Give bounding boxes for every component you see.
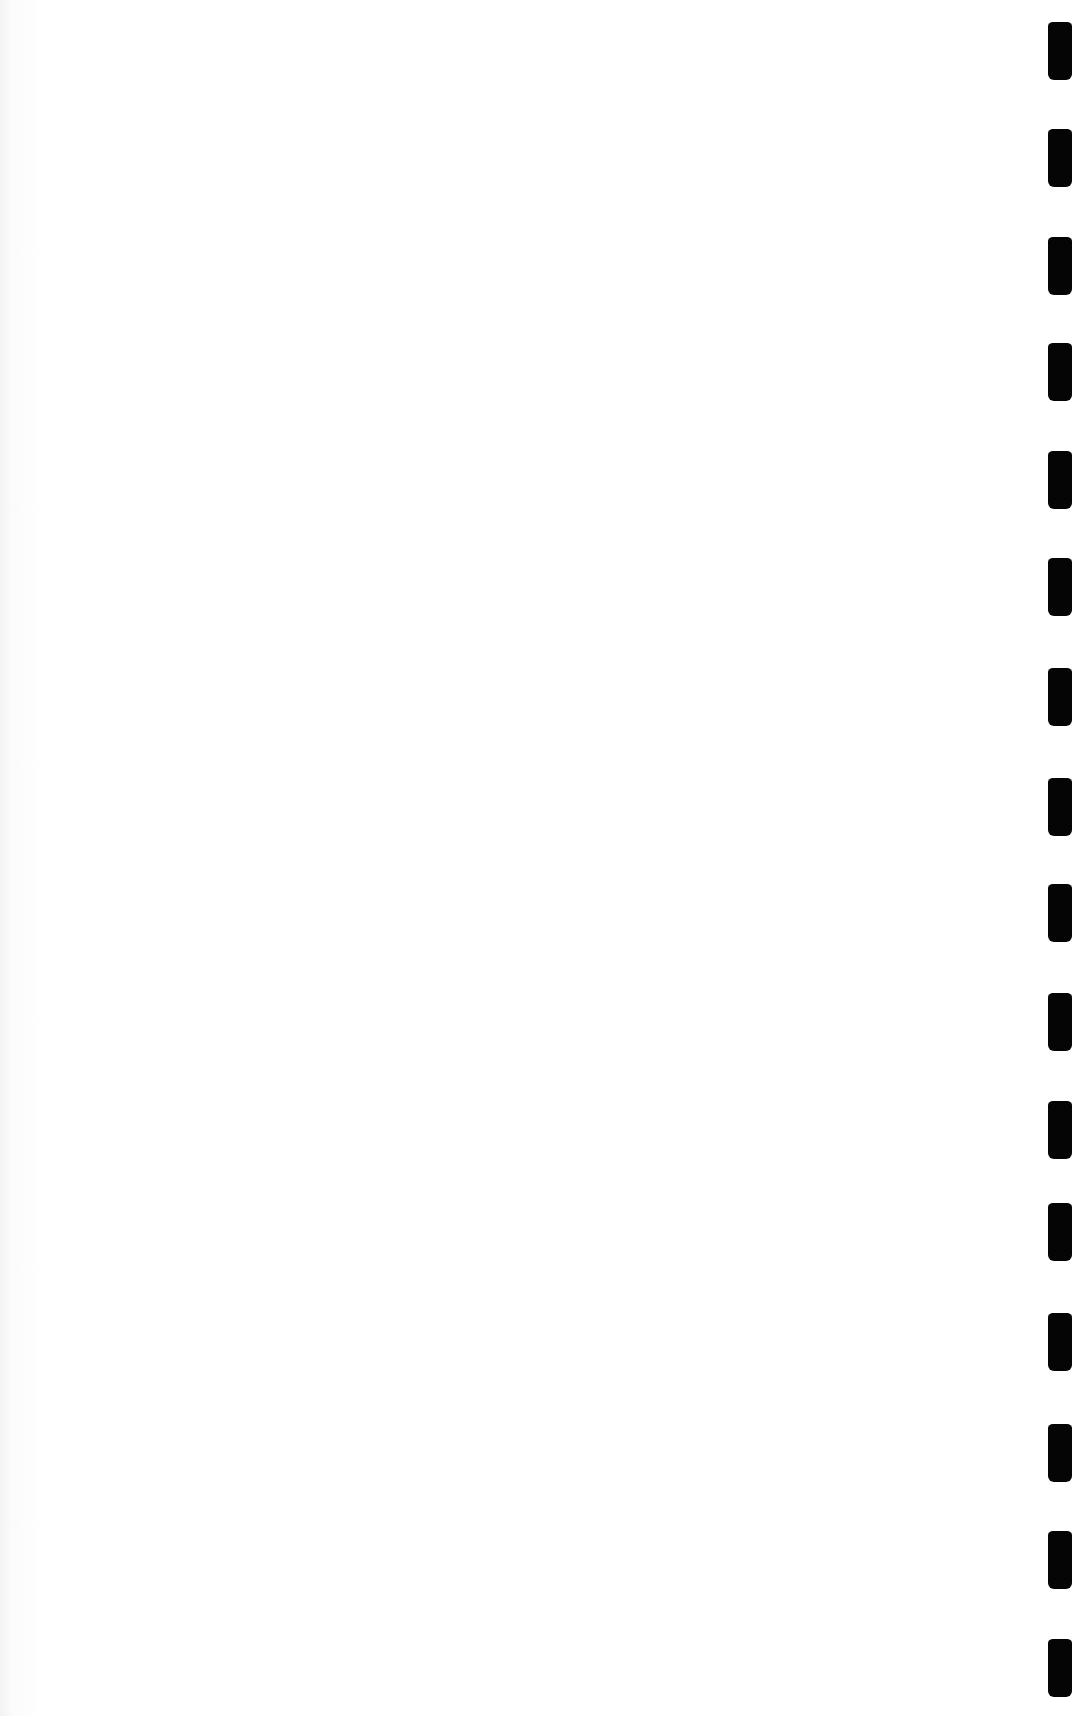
binding-hole — [1048, 22, 1072, 80]
binding-hole — [1048, 778, 1072, 836]
binding-hole — [1048, 1531, 1072, 1589]
binding-hole — [1048, 1203, 1072, 1261]
binding-hole — [1048, 129, 1072, 187]
binding-hole — [1048, 343, 1072, 401]
blank-document-page — [0, 0, 1088, 1716]
binding-hole — [1048, 451, 1072, 509]
binding-hole — [1048, 1313, 1072, 1371]
binding-hole — [1048, 993, 1072, 1051]
binding-hole — [1048, 668, 1072, 726]
binding-hole — [1048, 1639, 1072, 1697]
binding-hole — [1048, 1424, 1072, 1482]
binding-hole — [1048, 1101, 1072, 1159]
binding-hole — [1048, 558, 1072, 616]
binding-hole — [1048, 884, 1072, 942]
binding-hole — [1048, 237, 1072, 295]
